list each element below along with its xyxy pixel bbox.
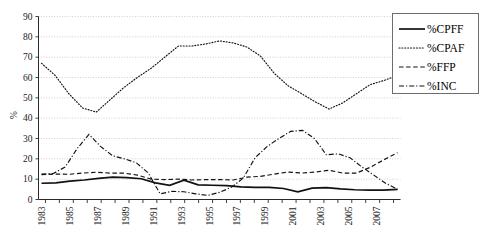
y-tick-label: 10	[23, 174, 33, 184]
legend: %CPFF%CPAF%FFP%INC	[393, 14, 479, 94]
x-tick-label: 1999	[260, 206, 270, 225]
chart-container: 0102030405060708090 19831985198719891991…	[0, 0, 484, 246]
y-tick-label: 80	[23, 32, 33, 42]
y-tick-label: 30	[23, 134, 33, 144]
x-tick-label: 1995	[205, 206, 215, 225]
x-tick-label: 1987	[93, 206, 103, 225]
series-line-cpaf	[42, 41, 398, 112]
legend-label-cpff: %CPFF	[427, 23, 463, 35]
x-tick-label: 2005	[344, 206, 354, 225]
y-tick-label: 90	[23, 12, 33, 22]
y-tick-label: 0	[28, 195, 33, 205]
legend-label-ffp: %FFP	[427, 61, 456, 73]
y-tick-label: 60	[23, 73, 33, 83]
x-tick-label: 2007	[372, 206, 382, 225]
y-tick-label: 40	[23, 113, 33, 123]
x-tick-label: 1991	[149, 206, 159, 225]
y-axis-title: %	[9, 111, 19, 119]
series-line-ffp	[42, 153, 398, 180]
y-tick-label: 20	[23, 154, 33, 164]
legend-label-cpaf: %CPAF	[427, 42, 464, 54]
x-axis: 1983198519871989199119931995199719992001…	[37, 200, 400, 226]
legend-label-inc: %INC	[427, 80, 457, 92]
y-tick-label: 50	[23, 93, 33, 103]
line-chart: 0102030405060708090 19831985198719891991…	[0, 0, 484, 246]
y-axis: 0102030405060708090	[23, 12, 39, 205]
x-tick-label: 2001	[288, 206, 298, 225]
x-tick-label: 1983	[37, 206, 47, 225]
x-tick-label: 1993	[177, 206, 187, 225]
x-tick-label: 1985	[65, 206, 75, 225]
y-tick-label: 70	[23, 52, 33, 62]
x-tick-label: 2003	[316, 206, 326, 225]
x-tick-label: 1997	[232, 206, 242, 225]
x-tick-label: 1989	[121, 206, 131, 225]
series-layer	[42, 41, 398, 196]
